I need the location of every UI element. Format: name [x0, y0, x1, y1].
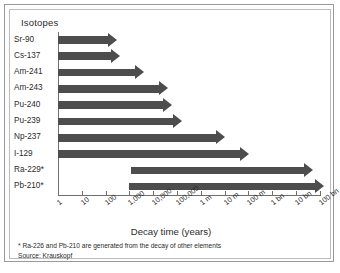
bar-row: I-129 — [10, 146, 332, 162]
bar-row: Np-237 — [10, 130, 332, 146]
bar-arrowhead-icon — [108, 33, 117, 47]
axis-tick — [320, 191, 321, 196]
bar — [58, 150, 240, 158]
bar-row-label: Am-241 — [14, 67, 58, 76]
chart-inner-frame: Isotopes Sr-90Cs-137Am-241Am-243Pu-240Pu… — [9, 9, 331, 259]
bar-row: Am-241 — [10, 65, 332, 81]
bar-row: Am-243 — [10, 81, 332, 97]
bar-arrowhead-icon — [216, 130, 225, 144]
bar-row-label: Pu-239 — [14, 116, 58, 125]
bar — [58, 101, 163, 109]
bar — [129, 183, 315, 191]
bar-row-label: Pb-210* — [14, 181, 58, 190]
bar-row-label: Sr-90 — [14, 35, 58, 44]
bar-arrowhead-icon — [135, 65, 144, 79]
footnote-source: Source: Krauskopf — [18, 251, 221, 261]
axis-tick — [225, 191, 226, 196]
bar — [58, 134, 216, 142]
axis-tick — [58, 191, 59, 196]
bar — [58, 69, 135, 77]
bar-row-label: Cs-137 — [14, 51, 58, 60]
bar-arrowhead-icon — [111, 49, 120, 63]
bar-row-label: Pu-240 — [14, 100, 58, 109]
bar-arrowhead-icon — [240, 147, 249, 161]
bar-row: Sr-90 — [10, 32, 332, 48]
bar — [58, 52, 111, 60]
bar-row-label: Np-237 — [14, 132, 58, 141]
axis-tick — [201, 191, 202, 196]
chart-figure: Isotopes Sr-90Cs-137Am-241Am-243Pu-240Pu… — [4, 4, 334, 262]
x-axis-title: Decay time (years) — [10, 226, 332, 237]
bar-row: Pu-240 — [10, 97, 332, 113]
axis-tick-label: 10 — [79, 195, 91, 207]
bar-row-label: I-129 — [14, 149, 58, 158]
bar-row-label: Am-243 — [14, 83, 58, 92]
bar — [58, 36, 108, 44]
bar — [58, 85, 159, 93]
bar-arrowhead-icon — [304, 163, 313, 177]
bar-row: Pu-239 — [10, 114, 332, 130]
bar-row: Ra-229* — [10, 162, 332, 178]
bar-arrowhead-icon — [159, 81, 168, 95]
bar — [58, 118, 173, 126]
bar-row: Cs-137 — [10, 48, 332, 64]
axis-tick — [106, 191, 107, 196]
bar-arrowhead-icon — [173, 114, 182, 128]
axis-tick — [82, 191, 83, 196]
axis-tick-label: 1 — [55, 197, 64, 207]
bar — [131, 167, 304, 175]
footnote-asterisk: * Ra-226 and Pb-210 are generated from t… — [18, 241, 221, 251]
bar-row-label: Ra-229* — [14, 165, 58, 174]
plot-area: Sr-90Cs-137Am-241Am-243Pu-240Pu-239Np-23… — [10, 10, 332, 260]
bar-arrowhead-icon — [163, 98, 172, 112]
footnotes: * Ra-226 and Pb-210 are generated from t… — [18, 241, 221, 261]
